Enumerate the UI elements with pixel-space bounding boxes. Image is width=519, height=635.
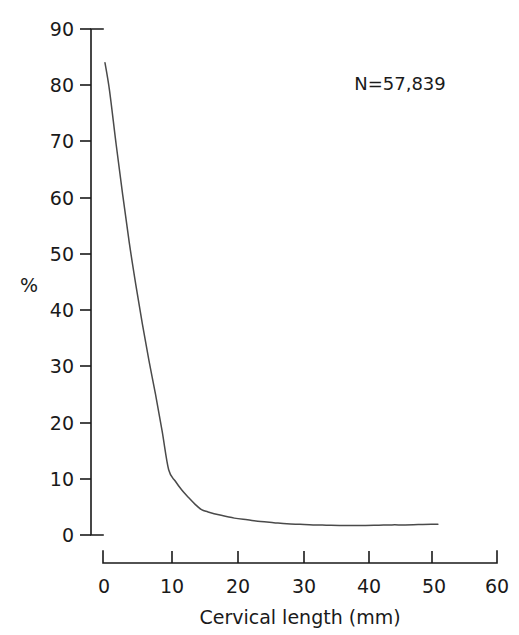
y-axis-line <box>91 29 103 535</box>
chart-svg: 90 80 70 60 50 40 30 20 10 0 % 0 10 20 <box>0 0 519 635</box>
y-axis-title: % <box>20 274 38 296</box>
y-tick-label: 30 <box>50 355 74 377</box>
x-tick-label: 40 <box>357 575 381 597</box>
y-tick-label: 60 <box>50 187 74 209</box>
y-tick-label: 70 <box>50 130 74 152</box>
x-tick-label: 10 <box>160 575 184 597</box>
x-tick-label: 50 <box>422 575 446 597</box>
chart-figure: 90 80 70 60 50 40 30 20 10 0 % 0 10 20 <box>0 0 519 635</box>
x-axis-line <box>103 551 497 563</box>
data-curve-percentage <box>105 63 438 526</box>
y-axis-ticks <box>80 29 91 535</box>
x-tick-label: 20 <box>226 575 250 597</box>
y-tick-label: 50 <box>50 243 74 265</box>
y-axis-tick-labels: 90 80 70 60 50 40 30 20 10 0 <box>50 18 74 546</box>
y-tick-label: 0 <box>62 524 74 546</box>
x-axis-tick-labels: 0 10 20 30 40 50 60 <box>98 575 509 597</box>
y-tick-label: 20 <box>50 412 74 434</box>
x-axis-ticks <box>172 551 432 563</box>
x-tick-label: 0 <box>98 575 110 597</box>
y-tick-label: 40 <box>50 299 74 321</box>
sample-size-annotation: N=57,839 <box>354 73 446 94</box>
y-tick-label: 80 <box>50 74 74 96</box>
x-tick-label: 60 <box>485 575 509 597</box>
y-tick-label: 90 <box>50 18 74 40</box>
x-tick-label: 30 <box>292 575 316 597</box>
y-tick-label: 10 <box>50 468 74 490</box>
x-axis-title: Cervical length (mm) <box>199 606 400 628</box>
